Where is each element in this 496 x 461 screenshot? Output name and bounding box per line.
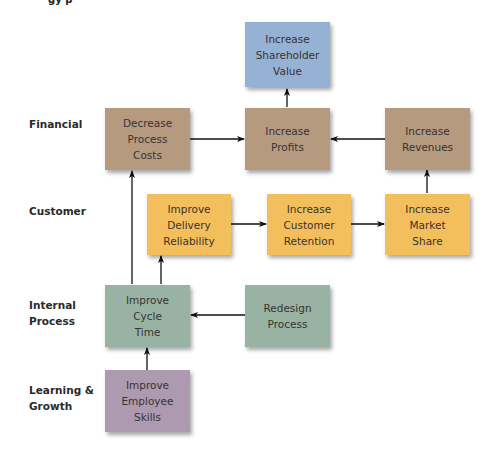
node-text-line: Improve (163, 201, 214, 217)
node-increase-market-share: Increase Market Share (385, 194, 470, 255)
node-text-line: Customer (283, 217, 334, 233)
node-text-line: Profits (265, 139, 309, 155)
node-text-line: Process (123, 131, 172, 147)
node-text-line: Improve (126, 292, 169, 308)
node-text-line: Revenues (402, 139, 453, 155)
node-text-line: Skills (121, 409, 173, 425)
node-text-line: Time (126, 324, 169, 340)
node-text-line: Delivery (163, 217, 214, 233)
node-text-line: Share (405, 233, 449, 249)
node-text-line: Costs (123, 147, 172, 163)
node-increase-customer-retention: Increase Customer Retention (267, 194, 351, 255)
node-text-line: Cycle (126, 308, 169, 324)
node-text-line: Decrease (123, 115, 172, 131)
node-text-line: Reliability (163, 233, 214, 249)
node-text-line: Process (263, 316, 311, 332)
node-text-line: Improve (121, 377, 173, 393)
node-redesign-process: Redesign Process (245, 285, 330, 347)
node-text-line: Increase (265, 123, 309, 139)
node-text-line: Employee (121, 393, 173, 409)
node-text-line: Market (405, 217, 449, 233)
node-text-line: Increase (283, 201, 334, 217)
node-increase-shareholder-value: Increase Shareholder Value (245, 22, 330, 87)
node-text-line: Value (256, 63, 320, 79)
node-text-line: Shareholder (256, 47, 320, 63)
node-decrease-process-costs: Decrease Process Costs (105, 108, 190, 170)
node-improve-employee-skills: Improve Employee Skills (105, 370, 190, 432)
node-text-line: Increase (405, 201, 449, 217)
node-text-line: Retention (283, 233, 334, 249)
node-text-line: Redesign (263, 300, 311, 316)
node-text-line: Increase (402, 123, 453, 139)
node-improve-delivery-reliability: Improve Delivery Reliability (147, 194, 231, 255)
node-improve-cycle-time: Improve Cycle Time (105, 285, 190, 347)
node-text-line: Increase (256, 31, 320, 47)
node-increase-revenues: Increase Revenues (385, 108, 470, 170)
node-increase-profits: Increase Profits (245, 108, 330, 170)
